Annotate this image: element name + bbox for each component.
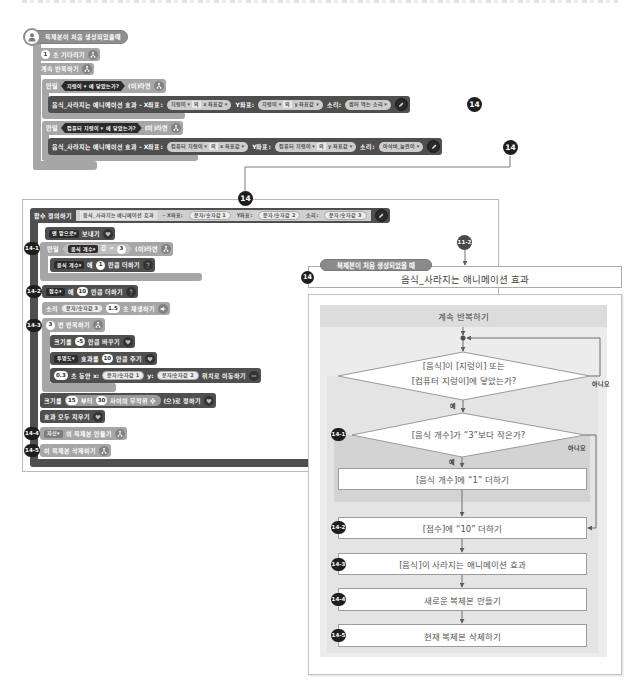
variable-icon bbox=[126, 287, 136, 297]
call-food-disappear-function-block[interactable]: 음식_사라지는 애니메이션 효과 - X좌표: 지렁이 의 x 좌표값 Y좌표:… bbox=[48, 96, 410, 113]
change-size-block[interactable]: 크기를 -5 만큼 바꾸기 bbox=[50, 335, 135, 348]
set-size-random-block[interactable]: 크기를 15 부터 30 사이의 무작위 수 (으)로 정하기 bbox=[40, 393, 216, 408]
size-change-input[interactable]: -5 bbox=[75, 337, 85, 346]
bring-to-front-block[interactable]: 맨 앞으로 보내기 bbox=[45, 227, 115, 240]
compare-condition[interactable]: 음식 개수 값 < 3 bbox=[62, 244, 132, 254]
flow-icon bbox=[171, 123, 181, 133]
set-label: (으)로 정하기 bbox=[164, 398, 202, 404]
sound-dropdown[interactable]: 아삭바_놀란이 bbox=[379, 142, 424, 152]
random-from-input[interactable]: 15 bbox=[66, 396, 78, 405]
effect-value-input[interactable]: 10 bbox=[102, 354, 114, 363]
clear-effects-label: 효과 모두 지우기 bbox=[44, 414, 90, 420]
object-dropdown[interactable]: 컴퓨터 지렁이 bbox=[171, 144, 207, 149]
create-clone-block[interactable]: 자신 의 복제본 만들기 bbox=[40, 427, 127, 440]
wait-block[interactable]: 1 초 기다리기 bbox=[37, 48, 100, 61]
clone-target-dropdown[interactable]: 자신 bbox=[44, 430, 63, 438]
delete-clone-label: 이 복제본 삭제하기 bbox=[44, 448, 96, 454]
glide-y-param[interactable]: 문자/숫자값 2 bbox=[157, 371, 199, 380]
touch-target-dropdown[interactable]: 컴퓨터 지렁이 bbox=[67, 126, 103, 131]
effect-prefix: 효과를 bbox=[81, 356, 99, 362]
decision-2-text: [음식 개수]가 “3”보다 작은가? bbox=[352, 431, 585, 440]
random-number-reporter[interactable]: 15 부터 30 사이의 무작위 수 bbox=[65, 395, 161, 406]
variable-dropdown[interactable]: 음식 개수 bbox=[54, 261, 84, 269]
touching-condition[interactable]: 지렁이 에 닿았는가? bbox=[61, 81, 125, 91]
wait-label: 초 기다리기 bbox=[53, 52, 85, 58]
pencil-icon[interactable] bbox=[395, 98, 408, 111]
touch-label: 에 닿았는가? bbox=[89, 84, 119, 89]
variable-dropdown[interactable]: 점수 bbox=[46, 288, 65, 296]
property-dropdown[interactable]: y 좌표값 bbox=[328, 144, 352, 149]
person-icon bbox=[23, 28, 41, 46]
function-definition-block[interactable]: 함수 정의하기 음식_사라지는 애니메이션 효과 - X좌표: 문자/숫자값 1… bbox=[30, 208, 390, 223]
y-label: Y좌표: bbox=[235, 102, 254, 108]
then-label: (이)라면 bbox=[135, 246, 158, 252]
touching-condition[interactable]: 컴퓨터 지렁이 에 닿았는가? bbox=[61, 123, 142, 133]
then-label: (이)라면 bbox=[128, 83, 151, 89]
if-touching-worm-block[interactable]: 만일 지렁이 에 닿았는가? (이)라면 bbox=[42, 79, 166, 93]
delete-clone-block[interactable]: 이 복제본 삭제하기 bbox=[40, 444, 111, 457]
speaker-icon bbox=[158, 304, 168, 314]
property-dropdown[interactable]: x 좌표값 bbox=[220, 144, 244, 149]
pencil-icon[interactable] bbox=[375, 209, 388, 222]
param-3[interactable]: 문자/숫자값 3 bbox=[324, 211, 366, 220]
glide-label: 위치로 이동하기 bbox=[202, 373, 246, 379]
y-coordinate-reporter[interactable]: 컴퓨터 지렁이 의 y 좌표값 bbox=[275, 142, 356, 152]
change-label: 만큼 바꾸기 bbox=[88, 339, 120, 345]
move-icon bbox=[249, 371, 259, 381]
ref-badge-11-2: 11-2 bbox=[457, 235, 472, 250]
flow-icon bbox=[99, 446, 109, 456]
clear-effects-block[interactable]: 효과 모두 지우기 bbox=[40, 410, 105, 423]
decision-1-line-1: [음식]이 [지렁이] 또는 bbox=[338, 362, 590, 371]
random-to-input[interactable]: 30 bbox=[96, 396, 108, 405]
touch-target-dropdown[interactable]: 지렁이 bbox=[67, 84, 86, 89]
glide-seconds-input[interactable]: 0.3 bbox=[54, 371, 68, 380]
flow-step-delete-clone: 현재 복제본 삭제하기 bbox=[338, 624, 587, 647]
layer-dropdown[interactable]: 맨 앞으로 bbox=[49, 230, 79, 238]
object-dropdown[interactable]: 지렁이 bbox=[171, 102, 190, 107]
sound-seconds-input[interactable]: 1.5 bbox=[106, 304, 120, 313]
flow-icon bbox=[93, 320, 103, 330]
set-effect-block[interactable]: 투명도 효과를 10 만큼 주기 bbox=[50, 352, 157, 365]
glide-to-xy-block[interactable]: 0.3 초 동안 x: 문자/숫자값 1 y: 문자/숫자값 2 위치로 이동하… bbox=[50, 368, 261, 383]
property-dropdown[interactable]: x 좌표값 bbox=[203, 102, 227, 107]
event-pill-label: 복제본이 처음 생성되었을 때 bbox=[337, 260, 416, 270]
add-label: 만큼 더하기 bbox=[91, 289, 123, 295]
x-coordinate-reporter[interactable]: 컴퓨터 지렁이 의 x 좌표값 bbox=[167, 142, 248, 152]
param-2[interactable]: 문자/숫자값 2 bbox=[258, 211, 300, 220]
page-canvas: 복제본이 처음 생성되었을때 1 초 기다리기 계속 반복하기 만일 지렁이 에… bbox=[0, 0, 640, 699]
change-score-block[interactable]: 점수 에 10 만큼 더하기 bbox=[42, 285, 138, 298]
of-label: 의 bbox=[317, 143, 326, 150]
function-signature[interactable]: 음식_사라지는 애니메이션 효과 - X좌표: 문자/숫자값 1 Y좌표: 문자… bbox=[76, 210, 370, 221]
play-sound-block[interactable]: 소리 문자/숫자값 3 1.5 초 재생하기 bbox=[42, 302, 170, 315]
function-name[interactable]: 음식_사라지는 애니메이션 효과 bbox=[80, 211, 157, 220]
add-value-input[interactable]: 10 bbox=[77, 287, 89, 296]
sound-param[interactable]: 문자/숫자값 3 bbox=[61, 304, 103, 313]
property-dropdown[interactable]: y 좌표값 bbox=[294, 102, 318, 107]
forever-loop-block[interactable]: 계속 반복하기 bbox=[37, 63, 94, 75]
glide-x-param[interactable]: 문자/숫자값 1 bbox=[102, 371, 144, 380]
object-dropdown[interactable]: 컴퓨터 지렁이 bbox=[279, 144, 315, 149]
effect-dropdown[interactable]: 투명도 bbox=[54, 355, 78, 363]
y-coordinate-reporter[interactable]: 지렁이 의 y 좌표값 bbox=[258, 100, 323, 110]
decision-1-line-2: [컴퓨터 지렁이]에 닿았는가? bbox=[338, 377, 590, 386]
wait-seconds-input[interactable]: 1 bbox=[41, 50, 50, 59]
if-food-count-block[interactable]: 만일 음식 개수 값 < 3 (이)라면 bbox=[40, 242, 173, 256]
create-clone-label: 의 복제본 만들기 bbox=[66, 431, 112, 437]
call-food-disappear-function-block[interactable]: 음식_사라지는 애니메이션 효과 - X좌표: 컴퓨터 지렁이 의 x 좌표값 … bbox=[48, 138, 442, 155]
when-clone-created-hat-block[interactable]: 복제본이 처음 생성되었을때 bbox=[25, 30, 128, 44]
sound-name: 아삭바_놀란이 bbox=[383, 144, 420, 149]
change-food-count-block[interactable]: 음식 개수 에 1 만큼 더하기 bbox=[50, 258, 155, 272]
object-dropdown[interactable]: 지렁이 bbox=[262, 102, 281, 107]
sound-dropdown[interactable]: 씹어 먹는 소리 bbox=[345, 100, 391, 110]
operator[interactable]: < bbox=[109, 246, 114, 252]
looks-icon bbox=[145, 354, 155, 364]
param-1[interactable]: 문자/숫자값 1 bbox=[189, 211, 231, 220]
variable-dropdown[interactable]: 음식 개수 bbox=[68, 245, 98, 253]
add-value-input[interactable]: 1 bbox=[96, 261, 105, 270]
pencil-icon[interactable] bbox=[427, 140, 440, 153]
repeat-block[interactable]: 3 번 반복하기 bbox=[42, 318, 105, 332]
if-touching-computer-worm-block[interactable]: 만일 컴퓨터 지렁이 에 닿았는가? (이)라면 bbox=[42, 121, 183, 135]
x-coordinate-reporter[interactable]: 지렁이 의 x 좌표값 bbox=[167, 100, 232, 110]
compare-value-input[interactable]: 3 bbox=[117, 245, 126, 254]
repeat-count-input[interactable]: 3 bbox=[46, 321, 55, 330]
